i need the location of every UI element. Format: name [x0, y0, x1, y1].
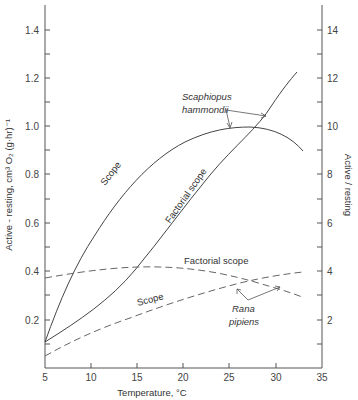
scaphiopus-factorial-scope-label: Factorial scope: [163, 166, 209, 225]
y-left-tick-0.2: 0.2: [25, 315, 39, 326]
scaphiopus-species-label-2: hammondii: [182, 104, 229, 115]
left-y-tick-labels: 0.2 0.4 0.6 0.8 1.0 1.2 1.4: [25, 25, 39, 326]
chart: 0.2 0.4 0.6 0.8 1.0 1.2 1.4 2 4 6 8 10 1…: [0, 0, 358, 400]
rana-scope-label: Scope: [136, 290, 165, 308]
y-left-tick-0.6: 0.6: [25, 218, 39, 229]
scaphiopus-species-label-1: Scaphiopus: [182, 91, 232, 102]
left-y-ticks: [45, 30, 50, 344]
y-right-tick-10: 10: [327, 121, 339, 132]
rana-factorial-scope-curve: [45, 267, 302, 297]
x-axis-title: Temperature, °C: [117, 387, 186, 398]
x-tick-10: 10: [85, 372, 97, 383]
axes: [45, 5, 322, 368]
x-tick-30: 30: [270, 372, 282, 383]
annotations: Scope Factorial scope Scaphiopus hammond…: [98, 91, 280, 327]
y-right-tick-8: 8: [327, 169, 333, 180]
y-left-tick-1.4: 1.4: [25, 25, 39, 36]
scaphiopus-scope-label: Scope: [98, 159, 123, 187]
y-left-axis-title: Active - resting, cm³ O₂ (g·hr)⁻¹: [3, 119, 14, 251]
x-tick-15: 15: [131, 372, 143, 383]
right-y-tick-labels: 2 4 6 8 10 12 14: [327, 25, 339, 326]
scaphiopus-scope-curve: [45, 127, 303, 342]
x-tick-5: 5: [42, 372, 48, 383]
y-right-tick-12: 12: [327, 73, 339, 84]
scaphiopus-arrow-to-factorial: [226, 110, 266, 116]
rana-arrow-to-scope: [237, 289, 248, 300]
rana-factorial-scope-label: Factorial scope: [184, 255, 248, 266]
y-left-tick-0.4: 0.4: [25, 266, 39, 277]
y-right-tick-4: 4: [327, 266, 333, 277]
y-left-tick-1.2: 1.2: [25, 73, 39, 84]
y-right-tick-2: 2: [327, 315, 333, 326]
rana-species-label-2: pipiens: [228, 316, 259, 327]
x-tick-25: 25: [223, 372, 235, 383]
y-right-tick-6: 6: [327, 218, 333, 229]
y-right-tick-14: 14: [327, 25, 339, 36]
right-y-ticks: [317, 30, 322, 344]
rana-arrow-to-factorial: [248, 287, 280, 300]
y-left-tick-0.8: 0.8: [25, 169, 39, 180]
x-ticks: [91, 363, 276, 368]
y-right-axis-title: Active / resting: [343, 154, 354, 216]
y-left-tick-1.0: 1.0: [25, 121, 39, 132]
x-tick-20: 20: [177, 372, 189, 383]
x-tick-labels: 5 10 15 20 25 30 35: [42, 372, 328, 383]
rana-species-label-1: Rana: [232, 303, 255, 314]
x-tick-35: 35: [316, 372, 328, 383]
